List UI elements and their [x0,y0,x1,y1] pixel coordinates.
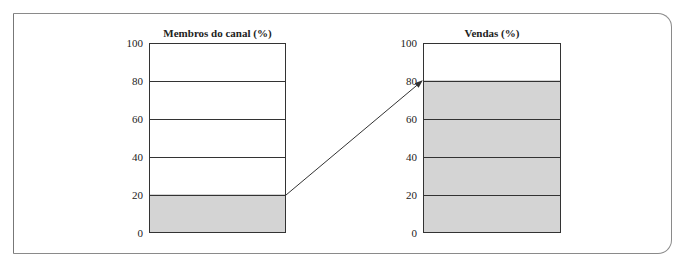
connector-arrow-icon [0,0,682,265]
